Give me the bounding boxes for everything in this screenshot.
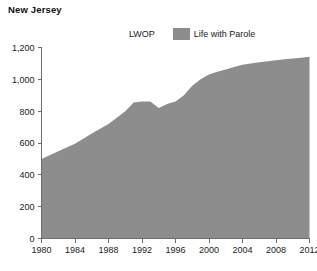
x-tick-label: 2000 — [199, 245, 219, 255]
x-tick-label: 1984 — [65, 245, 85, 255]
area-series-layer — [42, 57, 310, 239]
x-tick-label: 2004 — [232, 245, 252, 255]
x-tick-label: 2008 — [266, 245, 286, 255]
x-tick-label: 1992 — [132, 245, 152, 255]
chart-figure: New Jersey LWOP Life with Parole 0200400… — [0, 0, 317, 271]
y-tick-label: 200 — [19, 202, 34, 212]
x-tick-label: 1988 — [98, 245, 118, 255]
y-tick-label: 1,000 — [12, 75, 35, 85]
y-tick-label: 600 — [19, 138, 34, 148]
y-tick-label: 800 — [19, 107, 34, 117]
y-tick-label: 1,200 — [12, 43, 35, 53]
x-tick-label: 1980 — [31, 245, 51, 255]
x-tick-label: 1996 — [165, 245, 185, 255]
chart-plot-area: 02004006008001,0001,200 1980198419881992… — [0, 0, 317, 271]
area-series-life-with-parole — [42, 57, 310, 239]
x-tick-label: 2012 — [299, 245, 317, 255]
y-tick-label: 400 — [19, 170, 34, 180]
x-axis-ticks: 198019841988199219962000200420082012 — [31, 239, 317, 255]
y-tick-label: 0 — [29, 234, 34, 244]
y-axis-ticks: 02004006008001,0001,200 — [12, 43, 42, 244]
